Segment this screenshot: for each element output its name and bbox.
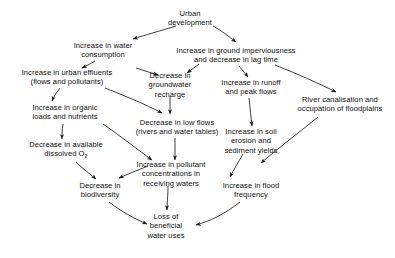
node-label-line: dissolved O2 xyxy=(29,150,103,160)
node-label-line: Decrease in xyxy=(149,71,192,80)
edge-flood-frequency-to-loss-water-uses xyxy=(196,202,240,225)
node-label-line: (flows and pollutants) xyxy=(22,77,113,86)
node-label-line: Increase in urban effluents xyxy=(22,68,113,77)
node-label-line: Decrease in xyxy=(79,181,120,190)
node-label-line: Decrease in low flows xyxy=(136,118,219,127)
edge-urban-effluents-to-organic-loads xyxy=(52,88,60,101)
node-label-line: occupation of floodplains xyxy=(298,104,383,113)
node-label-line: recharge xyxy=(149,90,192,99)
node-label-line: Increase in soil xyxy=(224,127,277,136)
node-label-line: Increase in flood xyxy=(223,181,280,190)
node-urban-effluents: Increase in urban effluents(flows and po… xyxy=(22,68,113,87)
node-flood-frequency: Increase in floodfrequency xyxy=(223,181,280,200)
node-label-line: consumption xyxy=(74,50,133,59)
node-label-line: Increase in water xyxy=(74,41,133,50)
node-label-line: development xyxy=(168,18,212,27)
node-label-line: frequency xyxy=(223,190,280,199)
edge-biodiversity-to-loss-water-uses xyxy=(109,202,147,224)
node-label-line: Increase in runoff xyxy=(221,78,280,87)
node-label-line: biodiversity xyxy=(79,190,120,199)
edge-ground-imperviousness-to-runoff-peak-flows xyxy=(239,66,248,77)
node-organic-loads: Increase in organicloads and nutrients xyxy=(32,103,97,122)
node-label-line: loads and nutrients xyxy=(32,112,97,121)
node-biodiversity: Decrease inbiodiversity xyxy=(79,181,120,200)
node-label-line: Loss of xyxy=(147,212,184,221)
node-label-line: Decrease in available xyxy=(29,140,103,149)
node-ground-imperviousness: Increase in ground imperviousnessand dec… xyxy=(176,46,295,65)
node-runoff-peak-flows: Increase in runoffand peak flows xyxy=(221,78,280,97)
node-groundwater-recharge: Decrease ingroundwaterrecharge xyxy=(149,71,192,99)
edge-urban-development-to-water-consumption xyxy=(133,26,176,39)
node-pollutant-concentration: Increase in pollutantconcentrations inre… xyxy=(136,160,205,188)
node-label-line: groundwater xyxy=(149,80,192,89)
node-label-line: receiving waters xyxy=(136,179,205,188)
node-label-line: (rivers and water tables) xyxy=(136,127,219,136)
edge-ground-imperviousness-to-river-canalisation xyxy=(275,65,336,92)
edge-runoff-peak-flows-to-soil-erosion xyxy=(249,98,252,126)
node-label-line: sediment yields xyxy=(224,146,277,155)
node-label-line: Increase in pollutant xyxy=(136,160,205,169)
edge-dissolved-oxygen-to-biodiversity xyxy=(76,162,96,179)
node-label-line: Urban xyxy=(168,9,212,18)
edge-organic-loads-to-dissolved-oxygen xyxy=(62,124,63,139)
node-label-line: Increase in ground imperviousness xyxy=(176,46,295,55)
node-low-flows: Decrease in low flows(rivers and water t… xyxy=(136,118,219,137)
node-label-line: and decrease in lag time xyxy=(176,55,295,64)
node-label-line: concentrations in xyxy=(136,169,205,178)
node-urban-development: Urbandevelopment xyxy=(168,9,212,28)
node-dissolved-oxygen: Decrease in availabledissolved O2 xyxy=(29,140,103,160)
node-water-consumption: Increase in waterconsumption xyxy=(74,41,133,60)
node-loss-water-uses: Loss ofbeneficialwater uses xyxy=(147,212,184,240)
edge-urban-development-to-ground-imperviousness xyxy=(213,26,236,42)
edge-pollutant-concentration-to-loss-water-uses xyxy=(167,186,168,210)
node-label-line: Increase in organic xyxy=(32,103,97,112)
node-soil-erosion: Increase in soilerosion andsediment yiel… xyxy=(224,127,277,155)
node-label-line: water uses xyxy=(147,231,184,240)
node-label-line: River canalisation and xyxy=(298,95,383,104)
node-label-line: erosion and xyxy=(224,136,277,145)
node-river-canalisation: River canalisation andoccupation of floo… xyxy=(298,95,383,114)
node-label-line: and peak flows xyxy=(221,87,280,96)
node-label-line: beneficial xyxy=(147,221,184,230)
diagram-canvas: UrbandevelopmentIncrease in waterconsump… xyxy=(0,0,395,258)
edge-soil-erosion-to-flood-frequency xyxy=(230,154,243,177)
